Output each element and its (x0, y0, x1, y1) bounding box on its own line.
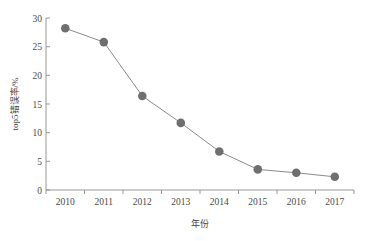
x-axis-title: 年份 (191, 218, 209, 229)
data-point-2012[interactable] (138, 92, 147, 101)
x-tick-label-2010: 2010 (56, 197, 75, 207)
y-tick-label-0: 0 (37, 186, 42, 196)
x-tick-label-2015: 2015 (248, 197, 267, 207)
y-tick-label-25: 25 (33, 42, 43, 52)
data-point-2014[interactable] (215, 147, 224, 156)
y-tick-label-10: 10 (33, 128, 43, 138)
y-axis-tick-labels: 30 25 20 15 10 5 0 (33, 14, 43, 196)
x-tick-label-2014: 2014 (210, 197, 229, 207)
line-chart-plot: 30 25 20 15 10 5 0 2010 2011 2012 2013 (0, 0, 367, 241)
x-tick-label-2013: 2013 (171, 197, 190, 207)
y-axis-ticks (46, 18, 50, 190)
data-point-2017[interactable] (331, 173, 340, 182)
series-line-top5-error (65, 28, 335, 177)
axes-group (46, 18, 354, 190)
x-tick-label-2012: 2012 (133, 197, 152, 207)
series-markers (61, 24, 339, 181)
data-point-2016[interactable] (292, 169, 301, 178)
y-tick-label-20: 20 (33, 71, 43, 81)
chart-container: 30 25 20 15 10 5 0 2010 2011 2012 2013 (0, 0, 367, 241)
y-tick-label-15: 15 (33, 100, 43, 110)
y-tick-label-5: 5 (37, 157, 42, 167)
data-point-2015[interactable] (253, 165, 262, 174)
y-tick-label-30: 30 (33, 14, 43, 24)
x-tick-label-2017: 2017 (325, 197, 344, 207)
data-point-2011[interactable] (100, 38, 109, 47)
data-point-2010[interactable] (61, 24, 70, 33)
x-tick-label-2011: 2011 (94, 197, 113, 207)
x-tick-label-2016: 2016 (287, 197, 306, 207)
data-point-2013[interactable] (177, 119, 186, 128)
x-axis-ticks (46, 190, 354, 194)
y-axis-title: top5错误率/% (9, 77, 20, 131)
x-axis-tick-labels: 2010 2011 2012 2013 2014 2015 2016 2017 (56, 197, 345, 207)
